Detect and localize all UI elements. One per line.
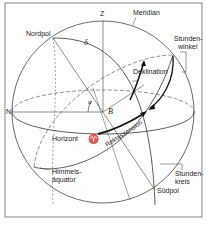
label-meridian: Meridian [133, 9, 160, 16]
label-deklination: Deklination [133, 68, 168, 75]
horizon-front [12, 112, 194, 134]
label-observer: B [108, 107, 113, 116]
label-stundenwinkel-2: winkel [177, 43, 198, 50]
label-stundenkreis-1: Stunden- [175, 170, 204, 177]
declination-arrowhead [141, 60, 146, 66]
celestial-sphere-diagram: Z Meridian Nordpol δ Stunden- winkel Dek… [0, 0, 206, 225]
label-stundenkreis-2: kreis [175, 178, 190, 185]
label-nordpol: Nordpol [26, 30, 51, 38]
label-himmelsaequator-2: äquator [52, 176, 76, 184]
label-stundenwinkel-1: Stunden- [174, 35, 203, 42]
label-horizont: Horizont [52, 135, 78, 142]
label-north: N [6, 108, 11, 115]
meridian-leader [133, 17, 136, 25]
label-himmelsaequator-1: Himmels- [52, 168, 82, 175]
label-delta: δ [84, 38, 88, 47]
label-zenith: Z [100, 10, 105, 17]
label-aries: ♈ [88, 133, 99, 144]
label-suedpol: Südpol [157, 187, 179, 195]
